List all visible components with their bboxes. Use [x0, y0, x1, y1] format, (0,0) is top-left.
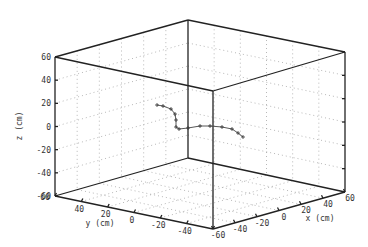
x-tick [300, 201, 302, 204]
z-axis-label: z (cm) [15, 112, 24, 141]
box-edge [188, 158, 345, 192]
box-edge [55, 57, 213, 91]
y-tick [134, 210, 136, 213]
box-edge [55, 158, 188, 196]
x-tick-label: -60 [211, 231, 226, 240]
y-tick-label: 20 [101, 210, 111, 219]
x-tick-label: -40 [233, 225, 248, 234]
x-tick-label: 0 [282, 213, 287, 222]
grid-line [144, 171, 301, 205]
grid-line [99, 183, 257, 216]
x-tick [278, 208, 280, 211]
y-tick-label: 0 [130, 216, 135, 225]
y-tick [108, 204, 110, 207]
z-tick-label: -20 [37, 146, 52, 155]
x-tick-label: 40 [323, 200, 333, 209]
z-tick-label: 40 [41, 76, 51, 85]
y-axis-label: y (cm) [86, 219, 115, 228]
y-tick [81, 199, 83, 202]
y-tick-label: 40 [75, 205, 85, 214]
z-tick-label: 20 [41, 99, 51, 108]
x-tick-label: -20 [255, 219, 270, 228]
y-tick [187, 221, 189, 224]
z-tick-label: 60 [41, 53, 51, 62]
y-tick-label: -40 [177, 227, 192, 236]
y-tick-label: -20 [151, 221, 166, 230]
plot-canvas: 6040200-20-40-60z (cm)40200-20-4060y (cm… [0, 0, 368, 247]
z-tick-label: -40 [37, 169, 52, 178]
y-tick [160, 215, 162, 218]
x-tick-label: 60 [345, 194, 355, 203]
box-edge [188, 20, 345, 52]
x-tick [234, 220, 236, 223]
x-tick [256, 214, 258, 217]
z-tick-label: 0 [46, 123, 51, 132]
x-axis-label: x (cm) [306, 214, 335, 223]
trajectory-line [157, 105, 243, 137]
y-tick-label: 60 [40, 193, 50, 202]
x-tick [322, 195, 324, 198]
3d-plot: 6040200-20-40-60z (cm)40200-20-4060y (cm… [0, 0, 368, 247]
grid-line [166, 164, 323, 198]
